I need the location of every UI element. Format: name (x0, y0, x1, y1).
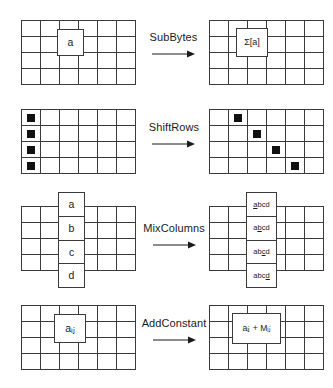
grid-cell (286, 53, 305, 69)
marker-square (234, 114, 242, 122)
grid-cell (210, 37, 229, 53)
grid-cell (22, 255, 41, 271)
marker-square (272, 146, 280, 154)
grid-cell (22, 110, 41, 126)
grid-cell (210, 69, 229, 85)
grid-cell (117, 21, 136, 37)
grid-cell (22, 53, 41, 69)
grid-cell (79, 142, 98, 158)
right-arrow-icon (151, 139, 196, 149)
grid-cell (267, 110, 286, 126)
grid-cell (60, 354, 79, 370)
grid-cell (210, 158, 229, 174)
grid-cell (210, 142, 229, 158)
grid-cell (117, 110, 136, 126)
grid-cell (286, 158, 305, 174)
grid-cell (79, 69, 98, 85)
operation-label-subbytes: SubBytes (141, 31, 206, 43)
grid-cell (286, 223, 305, 239)
grid-cell (248, 110, 267, 126)
grid-cell (286, 239, 305, 255)
grid-cell (60, 142, 79, 158)
grid-cell (117, 37, 136, 53)
grid-cell (210, 338, 229, 354)
grid-cell (210, 110, 229, 126)
grid-cell (117, 239, 136, 255)
highlighted-column-mixcolumns-output: abcd abcd abcd abcd (246, 192, 277, 288)
grid-cell (229, 69, 248, 85)
grid-cell (229, 158, 248, 174)
grid-cell (210, 223, 229, 239)
grid-cell (305, 239, 324, 255)
marker-square (253, 130, 261, 138)
grid-cell (267, 142, 286, 158)
grid-cell (210, 255, 229, 271)
grid-cell (117, 53, 136, 69)
operation-row-shiftrows: ShiftRows (0, 95, 333, 190)
operation-label-addconstant: AddConstant (131, 317, 217, 329)
grid-cell (267, 158, 286, 174)
grid-cell (229, 110, 248, 126)
grid-cell (267, 53, 286, 69)
column-cell: abcd (247, 217, 276, 241)
grid-cell (305, 338, 324, 354)
grid-cell (22, 37, 41, 53)
grid-cell (117, 69, 136, 85)
grid-cell (305, 110, 324, 126)
grid-cell (248, 158, 267, 174)
grid-cell (98, 322, 117, 338)
grid-cell (98, 223, 117, 239)
grid-cell (117, 126, 136, 142)
grid-cell (60, 110, 79, 126)
grid-cell (305, 354, 324, 370)
grid-cell (41, 142, 60, 158)
marker-square (27, 114, 35, 122)
grid-cell (305, 142, 324, 158)
grid-cell (22, 338, 41, 354)
grid-cell (210, 207, 229, 223)
right-arrow-icon (152, 240, 197, 250)
grid-cell (210, 21, 229, 37)
grid-cell (305, 37, 324, 53)
right-arrow-icon (151, 49, 196, 59)
grid-cell (98, 207, 117, 223)
grid-cell (22, 21, 41, 37)
grid-cell (286, 37, 305, 53)
grid-cell (60, 69, 79, 85)
operation-row-mixcolumns: a b c d MixColumns (0, 190, 333, 290)
grid-cell (41, 110, 60, 126)
grid-cell (22, 69, 41, 85)
grid-cell (248, 142, 267, 158)
grid-cell (210, 354, 229, 370)
grid-cell (98, 239, 117, 255)
grid-cell (267, 21, 286, 37)
grid-cell (79, 158, 98, 174)
grid-cell (22, 207, 41, 223)
grid-cell (305, 69, 324, 85)
grid-cell (267, 37, 286, 53)
grid-cell (229, 126, 248, 142)
grid-cell (79, 110, 98, 126)
highlighted-cell-subbytes-input: a (57, 29, 84, 56)
grid-cell (98, 142, 117, 158)
grid-cell (286, 110, 305, 126)
highlighted-cell-subbytes-output: Σ[a] (236, 28, 268, 57)
grid-cell (305, 255, 324, 271)
grid-cell (98, 158, 117, 174)
aes-round-transformations-diagram: a SubBytes (0, 0, 333, 388)
marker-square (27, 146, 35, 154)
grid-cell (305, 322, 324, 338)
grid-cell (98, 110, 117, 126)
grid-cell (305, 158, 324, 174)
grid-cell (229, 142, 248, 158)
grid-cell (286, 354, 305, 370)
grid-cell (98, 255, 117, 271)
grid-cell (267, 354, 286, 370)
grid-cell (41, 158, 60, 174)
grid-cell (305, 21, 324, 37)
grid-cell (229, 354, 248, 370)
marker-square (291, 162, 299, 170)
grid-cell (79, 354, 98, 370)
grid-cell (286, 338, 305, 354)
grid-cell (286, 21, 305, 37)
